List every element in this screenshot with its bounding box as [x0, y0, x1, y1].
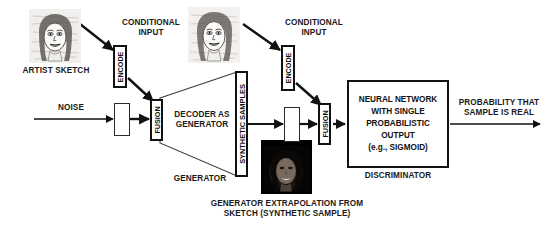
generator-label: GENERATOR: [164, 174, 236, 184]
discriminator-box-text: NEURAL NETWORK WITH SINGLE PROBABILISTIC…: [349, 94, 447, 153]
synthetic-sample-image: [261, 140, 312, 194]
noise-latent-box[interactable]: [114, 103, 130, 136]
encode-to-fusion-arrow: [128, 78, 153, 101]
fusion-box-1-label: FUSION: [152, 106, 161, 133]
encode-box-1[interactable]: ENCODE: [113, 45, 127, 88]
encode-box-1-label: ENCODE: [116, 51, 125, 82]
fusion-box-2-label: FUSION: [320, 110, 329, 137]
encode2-to-fusion2-arrow: [296, 83, 321, 105]
conditional-input-label-1: CONDITIONAL INPUT: [110, 18, 192, 37]
sketch-to-encode-arrow: [80, 24, 113, 50]
discriminator-box[interactable]: NEURAL NETWORK WITH SINGLE PROBABILISTIC…: [347, 80, 449, 168]
conditional-sketch-image: [188, 7, 240, 63]
synthetic-samples-box[interactable]: SYNTHETIC SAMPLES: [235, 71, 248, 177]
synthetic-samples-label: SYNTHETIC SAMPLES: [237, 84, 246, 164]
conditional-input-label-2: CONDITIONAL INPUT: [272, 18, 356, 37]
artist-sketch-image: [29, 9, 81, 63]
discriminator-label: DISCRIMINATOR: [348, 171, 448, 181]
probability-output-label: PROBABILITY THAT SAMPLE IS REAL: [453, 98, 545, 117]
diagram-canvas: ENCODE FUSION SYNTHETIC SAMPLES ENCODE F…: [0, 0, 547, 228]
noise-label: NOISE: [34, 103, 108, 113]
generator-extrapolation-caption: GENERATOR EXTRAPOLATION FROM SKETCH (SYN…: [176, 199, 398, 218]
encode-box-2[interactable]: ENCODE: [281, 45, 295, 91]
fusion-box-2[interactable]: FUSION: [318, 103, 331, 145]
decoder-as-generator-label: DECODER AS GENERATOR: [168, 110, 236, 129]
encode-box-2-label: ENCODE: [284, 53, 293, 84]
fusion-box-1[interactable]: FUSION: [150, 99, 163, 141]
artist-sketch-label: ARTIST SKETCH: [10, 66, 102, 76]
discriminator-input-box[interactable]: [284, 107, 300, 142]
